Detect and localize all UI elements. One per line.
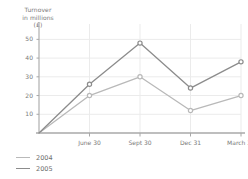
y-axis-tick-50: 50 [19,35,33,42]
legend-item-2004: 2004 [16,152,53,163]
line-chart: Turnover in millions (£) 1020304050 June… [0,0,248,179]
x-axis-tick-march-31: March 31 [211,139,248,146]
y-axis-tick-30: 30 [19,73,33,80]
legend-swatch-2005 [16,168,30,169]
legend-label-2004: 2004 [36,154,53,162]
y-axis-tick-10: 10 [19,110,33,117]
legend-item-2005: 2005 [16,163,53,174]
chart-legend: 2004 2005 [16,152,53,174]
tick-marks [37,39,242,136]
y-axis-tick-40: 40 [19,54,33,61]
y-axis-tick-20: 20 [19,92,33,99]
legend-label-2005: 2005 [36,165,53,173]
legend-swatch-2004 [16,157,30,158]
